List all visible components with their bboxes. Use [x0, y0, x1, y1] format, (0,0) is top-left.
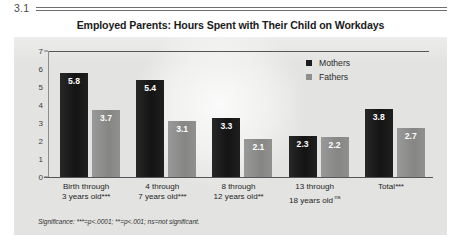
bar-group: 5.83.7 — [54, 51, 126, 177]
bar-mothers: 5.4 — [136, 80, 164, 177]
legend-item: Fathers — [306, 71, 416, 83]
bar-group: 3.32.1 — [206, 51, 278, 177]
significance-marker: ** — [258, 192, 264, 201]
figure-header: 3.1 — [0, 0, 461, 20]
bar-value-label: 2.7 — [397, 131, 425, 141]
significance-marker: *** — [178, 192, 187, 201]
category-label-line2: 7 years old*** — [124, 192, 200, 202]
bar-value-label: 3.8 — [365, 112, 393, 122]
significance-marker: *** — [102, 192, 111, 201]
y-axis-tick-label: 5 — [39, 83, 43, 92]
bar-fathers: 2.1 — [244, 139, 272, 177]
legend-swatch-icon — [306, 74, 312, 80]
category-label: Birth through3 years old*** — [48, 182, 124, 202]
bar-value-label: 3.3 — [212, 121, 240, 131]
header-rule-line-top — [36, 7, 447, 8]
y-axis-tick-label: 1 — [39, 155, 43, 164]
category-label-line2: 12 years old** — [200, 192, 276, 202]
chart-legend: MothersFathers — [306, 57, 416, 85]
y-axis-tick-label: 2 — [39, 137, 43, 146]
y-axis-tick-label: 6 — [39, 65, 43, 74]
bar-fathers: 3.7 — [92, 110, 120, 177]
bar-value-label: 2.2 — [321, 140, 349, 150]
y-axis-tick-label: 0 — [39, 173, 43, 182]
bar-mothers: 2.3 — [289, 136, 317, 177]
bar-mothers: 3.8 — [365, 109, 393, 177]
category-label-line1: Birth through — [48, 182, 124, 192]
legend-swatch-icon — [306, 60, 312, 66]
figure-number: 3.1 — [14, 2, 29, 14]
x-axis-line — [44, 177, 433, 178]
category-label-line2: 3 years old*** — [48, 192, 124, 202]
chart-panel: 76543210 5.83.75.43.13.32.12.32.23.82.7 … — [14, 37, 447, 235]
bar-mothers: 5.8 — [60, 73, 88, 177]
significance-marker: *** — [395, 182, 404, 191]
bar-value-label: 3.7 — [92, 113, 120, 123]
bar-value-label: 2.3 — [289, 139, 317, 149]
legend-label: Mothers — [319, 58, 350, 68]
x-axis-category-labels: Birth through3 years old***4 through7 ye… — [48, 182, 429, 210]
header-double-rule — [36, 7, 447, 11]
category-label: 4 through7 years old*** — [124, 182, 200, 202]
category-label-line1: 8 through — [200, 182, 276, 192]
bar-value-label: 2.1 — [244, 142, 272, 152]
y-axis-tick-label: 7 — [39, 47, 43, 56]
bar-fathers: 3.1 — [168, 121, 196, 177]
category-label: Total*** — [353, 182, 429, 192]
y-axis-tick-label: 3 — [39, 119, 43, 128]
category-label-line1: 13 through — [277, 182, 353, 192]
bar-mothers: 3.3 — [212, 118, 240, 177]
bar-value-label: 5.8 — [60, 76, 88, 86]
category-label-line1: 4 through — [124, 182, 200, 192]
header-rule-line-bottom — [36, 10, 447, 11]
category-label-line2: 18 years old ns — [277, 192, 353, 206]
y-axis-tick-label: 4 — [39, 101, 43, 110]
bar-group: 5.43.1 — [130, 51, 202, 177]
significance-footnote: Significance: ***=p<.0001; **=p<.001; ns… — [38, 218, 200, 225]
significance-marker: ns — [333, 194, 340, 200]
bar-value-label: 5.4 — [136, 83, 164, 93]
category-label-line1: Total*** — [353, 182, 429, 192]
category-label: 8 through12 years old** — [200, 182, 276, 202]
legend-item: Mothers — [306, 57, 416, 69]
bar-fathers: 2.7 — [397, 128, 425, 177]
chart-title: Employed Parents: Hours Spent with Their… — [0, 19, 461, 31]
bar-value-label: 3.1 — [168, 124, 196, 134]
category-label: 13 through18 years old ns — [277, 182, 353, 206]
bar-fathers: 2.2 — [321, 137, 349, 177]
legend-label: Fathers — [319, 72, 348, 82]
